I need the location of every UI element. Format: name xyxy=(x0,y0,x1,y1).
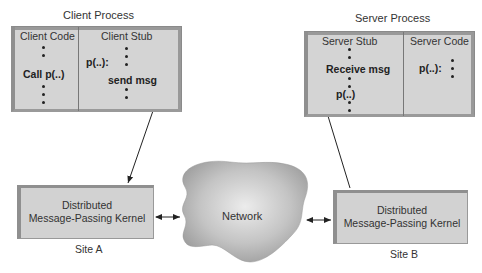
site-b-label: Site B xyxy=(390,248,418,260)
server-process-title: Server Process xyxy=(355,12,430,24)
client-process-title: Client Process xyxy=(63,9,134,21)
client-stub-ellipsis-top xyxy=(125,47,128,71)
site-a-label: Site A xyxy=(75,243,102,255)
site-b-kernel-box: Distributed Message-Passing Kernel xyxy=(333,190,468,244)
client-stub-header: Client Stub xyxy=(101,30,152,42)
client-stub-proc-label: p(..): xyxy=(86,56,109,68)
receive-msg-label: Receive msg xyxy=(326,63,390,75)
site-a-kernel-line2: Message-Passing Kernel xyxy=(21,212,153,225)
site-b-kernel-line2: Message-Passing Kernel xyxy=(337,217,467,230)
site-a-kernel-line1: Distributed xyxy=(21,199,153,212)
client-stub-ellipsis-bottom xyxy=(125,88,128,104)
client-code-ellipsis-top xyxy=(42,46,45,62)
server-code-header: Server Code xyxy=(410,35,469,47)
network-label: Network xyxy=(222,210,262,222)
send-msg-label: send msg xyxy=(108,74,157,86)
server-code-proc-label: p(..): xyxy=(419,62,442,74)
server-divider xyxy=(403,32,404,116)
client-divider xyxy=(78,27,79,111)
call-label: Call p(..) xyxy=(23,68,64,80)
client-code-header: Client Code xyxy=(20,30,75,42)
client-code-ellipsis-bottom xyxy=(42,85,45,109)
site-b-kernel-line1: Distributed xyxy=(337,204,467,217)
site-a-kernel-box: Distributed Message-Passing Kernel xyxy=(17,185,154,239)
server-code-ellipsis xyxy=(451,59,454,83)
server-stub-ellipsis-top xyxy=(348,48,351,64)
server-stub-header: Server Stub xyxy=(322,35,377,47)
server-stub-proc-label: p(..) xyxy=(336,88,355,100)
server-stub-ellipsis-bottom xyxy=(348,101,351,117)
